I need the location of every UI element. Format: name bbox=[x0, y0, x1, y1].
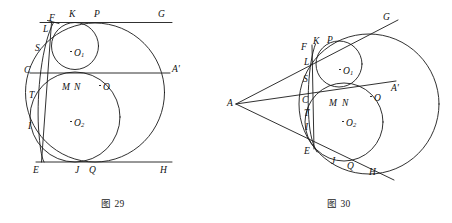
fig29-center-label-O1: O1 bbox=[74, 49, 84, 59]
circle-O1 bbox=[316, 41, 362, 87]
fig29-center-label-O2: O2 bbox=[74, 119, 84, 129]
ray-AG bbox=[236, 20, 398, 104]
fig29-point-Q: Q bbox=[89, 166, 96, 176]
fig30-center-label-O1: O1 bbox=[343, 67, 353, 77]
fig29-O2-sub: 2 bbox=[81, 121, 84, 128]
fig29-point-F: F bbox=[49, 14, 55, 24]
fig30-point-L: L bbox=[304, 58, 309, 68]
fig29-point-P: P bbox=[94, 10, 100, 20]
ray-AA-prime bbox=[236, 81, 396, 104]
figure-29-panel: F K P G L S C A' M N T I E J Q H O1 O O2… bbox=[0, 0, 226, 223]
fig29-center-label-O: O bbox=[103, 83, 110, 93]
fig30-point-M: M bbox=[329, 99, 337, 109]
figure-30-panel: A G F K P L S C A' M N T I E J Q H O1 O … bbox=[226, 0, 452, 223]
fig29-O1-base: O bbox=[74, 48, 81, 58]
fig29-O2-base: O bbox=[74, 118, 81, 128]
fig29-point-N: N bbox=[74, 83, 80, 93]
fig30-point-T: T bbox=[304, 109, 309, 119]
fig30-point-Q: Q bbox=[347, 162, 354, 172]
fig30-center-label-O2: O2 bbox=[346, 119, 356, 129]
fig30-point-F: F bbox=[301, 43, 307, 53]
center-dot-O1 bbox=[339, 69, 341, 71]
center-dot-O bbox=[99, 85, 101, 87]
figure-page: F K P G L S C A' M N T I E J Q H O1 O O2… bbox=[0, 0, 452, 223]
fig29-O-base: O bbox=[103, 82, 110, 92]
fig30-point-J: J bbox=[331, 157, 335, 167]
fig29-O1-sub: 1 bbox=[81, 51, 84, 58]
figure-30-caption: 图 30 bbox=[226, 196, 452, 210]
circle-O2 bbox=[305, 83, 383, 161]
fig30-point-I: I bbox=[305, 123, 308, 133]
fig30-point-A-prime: A' bbox=[391, 84, 399, 94]
fig29-point-G: G bbox=[158, 10, 165, 20]
fig30-point-K: K bbox=[313, 37, 319, 47]
center-dot-O bbox=[370, 96, 372, 98]
figure-30-drawing bbox=[226, 0, 452, 196]
fig30-O2-sub: 2 bbox=[353, 121, 356, 128]
fig29-point-L: L bbox=[43, 25, 48, 35]
fig30-point-E: E bbox=[304, 147, 310, 157]
fig29-point-A-prime: A' bbox=[172, 65, 180, 75]
segment-FE bbox=[42, 23, 52, 163]
center-dot-O2 bbox=[342, 121, 344, 123]
center-dot-O1 bbox=[70, 51, 72, 53]
fig30-O1-base: O bbox=[343, 66, 350, 76]
fig30-point-S: S bbox=[303, 75, 308, 85]
fig30-point-H: H bbox=[369, 168, 376, 178]
fig30-O-base: O bbox=[374, 93, 381, 103]
center-dot-O2 bbox=[70, 121, 72, 123]
fig30-O2-base: O bbox=[346, 118, 353, 128]
fig30-point-N: N bbox=[342, 99, 348, 109]
fig29-point-I: I bbox=[28, 122, 31, 132]
fig30-center-label-O: O bbox=[374, 94, 381, 104]
fig29-point-K: K bbox=[69, 10, 75, 20]
fig30-point-P: P bbox=[327, 36, 333, 46]
fig29-point-J: J bbox=[75, 166, 79, 176]
fig29-point-H: H bbox=[160, 166, 167, 176]
fig29-point-M: M bbox=[62, 83, 70, 93]
figure-29-caption: 图 29 bbox=[0, 196, 226, 210]
fig29-point-C: C bbox=[24, 66, 30, 76]
fig30-point-A: A bbox=[227, 99, 233, 109]
fig29-point-E: E bbox=[33, 166, 39, 176]
fig29-point-T: T bbox=[29, 91, 34, 101]
fig30-point-G: G bbox=[383, 13, 390, 23]
fig30-O1-sub: 1 bbox=[350, 69, 353, 76]
fig29-point-S: S bbox=[35, 44, 40, 54]
fig30-point-C: C bbox=[302, 96, 308, 106]
circle-O1 bbox=[52, 23, 99, 70]
